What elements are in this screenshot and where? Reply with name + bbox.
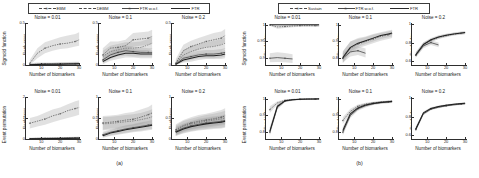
x-tick-label: 20 <box>58 66 62 70</box>
chart-cell: Noise = 0.1Rank error00.51102030Number o… <box>84 89 157 160</box>
y-tick-mark <box>266 25 268 26</box>
y-tick-label: 0 <box>169 63 171 67</box>
plot-area: 0.90.951102030 <box>265 23 321 66</box>
x-tick-label: 10 <box>185 140 189 144</box>
y-tick-mark <box>172 139 174 140</box>
y-tick-label: 1 <box>263 23 265 27</box>
y-tick-label: 0.5 <box>165 116 171 120</box>
chart-cell: Noise = 0.2Rank error00.5102030Number of… <box>157 15 230 86</box>
chart-title: Noise = 0.1 <box>324 89 397 95</box>
chart-title: Noise = 0.1 <box>324 15 397 21</box>
x-tick-label: 30 <box>150 140 154 144</box>
y-tick-label: 0 <box>169 137 171 141</box>
y-tick-mark <box>99 65 101 66</box>
y-tick-label: 1 <box>23 116 25 120</box>
y-tick-label: 0.8 <box>259 130 265 134</box>
axes: 0.80.91102030 <box>265 97 321 140</box>
y-tick-mark <box>412 61 414 62</box>
x-tick-label: 30 <box>223 140 227 144</box>
legend-label: FTR w.o.f. <box>356 6 375 11</box>
plot-area: 00.5102030 <box>171 23 227 66</box>
chart-cell: Noise = 0.01Rank error00.5102030Number o… <box>11 15 84 86</box>
legend-line-icon <box>390 8 409 9</box>
y-tick-mark <box>26 23 28 24</box>
axes: 0.80.91102030 <box>338 23 394 66</box>
panel-caption-b: (b) <box>240 160 479 167</box>
x-tick-label: 20 <box>204 140 208 144</box>
y-tick-label: 0.95 <box>257 39 265 43</box>
y-tick-label: 1 <box>263 97 265 101</box>
y-tick-label: 0.9 <box>332 113 338 117</box>
legend-item-ftr: FTR <box>390 6 418 11</box>
y-tick-label: 1 <box>409 22 411 26</box>
y-tick-mark <box>412 98 414 99</box>
legend-item-ftr-wof: ✳ FTR w.o.f. <box>122 6 159 11</box>
x-axis-label: Number of biomarkers <box>94 72 156 78</box>
plot-area: 00.51102030 <box>171 97 227 140</box>
x-tick-label: 20 <box>298 66 302 70</box>
axes: 012102030 <box>25 97 81 140</box>
y-tick-mark <box>99 118 101 119</box>
x-axis-label: Number of biomarkers <box>407 72 469 78</box>
legend-line-icon <box>171 8 190 9</box>
x-tick-label: 30 <box>390 140 394 144</box>
x-axis-label: Number of biomarkers <box>334 146 396 152</box>
x-tick-label: 10 <box>352 140 356 144</box>
x-tick-label: 30 <box>77 66 81 70</box>
x-tick-label: 20 <box>371 66 375 70</box>
x-tick-label: 20 <box>131 140 135 144</box>
axes: 0.60.81102030 <box>411 97 467 140</box>
plot-area: 00.5102030 <box>25 23 81 66</box>
chart-cell: Noise = 0.01Rand index0.90.951102030Numb… <box>251 15 324 86</box>
legend-line-icon: ✳ <box>39 8 56 9</box>
y-tick-mark <box>99 97 101 98</box>
x-tick-label: 10 <box>185 66 189 70</box>
axes: 00.5102030 <box>171 23 227 66</box>
x-axis-label: Number of biomarkers <box>21 72 83 78</box>
axes: 00.5102030 <box>25 23 81 66</box>
x-axis-label: Number of biomarkers <box>167 72 229 78</box>
y-tick-mark <box>266 58 268 59</box>
plot-area: 0.60.81102030 <box>411 23 467 66</box>
chart-title: Noise = 0.01 <box>251 15 324 21</box>
x-tick-label: 30 <box>77 140 81 144</box>
chart-cell: Noise = 0.01Rank error012102030Number of… <box>11 89 84 160</box>
y-tick-mark <box>172 23 174 24</box>
legend-item-ebm: ✳ EBM <box>39 6 66 11</box>
x-tick-label: 30 <box>317 140 321 144</box>
y-tick-label: 0.5 <box>92 21 98 25</box>
y-tick-mark <box>412 24 414 25</box>
axes: 0.80.91102030 <box>338 97 394 140</box>
chart-cell: Noise = 0.1Rand index0.80.91102030Number… <box>324 15 397 86</box>
y-tick-mark <box>26 65 28 66</box>
chart-cell: Noise = 0.1Rank error00.5102030Number of… <box>84 15 157 86</box>
chart-grid-a: Noise = 0.01Rank error00.5102030Number o… <box>0 15 239 163</box>
y-tick-label: 0.8 <box>332 130 338 134</box>
y-tick-label: 0.6 <box>405 59 411 63</box>
chart-title: Noise = 0.01 <box>251 89 324 95</box>
x-axis-label: Number of biomarkers <box>261 146 323 152</box>
panel-a: ✳ EBM DEBM ✳ FTR w.o.f. FTR Sigmoid func… <box>0 0 239 178</box>
y-tick-label: 0.5 <box>19 21 25 25</box>
legend-line-icon: ✳ <box>338 8 355 9</box>
y-tick-label: 0.6 <box>405 133 411 137</box>
y-tick-label: 0 <box>96 137 98 141</box>
x-tick-label: 20 <box>131 66 135 70</box>
chart-grid-b: Noise = 0.01Rand index0.90.951102030Numb… <box>240 15 479 163</box>
x-axis-label: Number of biomarkers <box>94 146 156 152</box>
y-tick-mark <box>26 118 28 119</box>
x-tick-label: 10 <box>425 140 429 144</box>
plot-area: 0.80.91102030 <box>338 23 394 66</box>
x-tick-label: 20 <box>371 140 375 144</box>
y-tick-mark <box>339 99 341 100</box>
plot-area: 0.60.81102030 <box>411 97 467 140</box>
x-tick-label: 20 <box>58 140 62 144</box>
legend-label: FTR w.o.f. <box>140 6 159 11</box>
chart-cell: Noise = 0.1Rand index0.80.91102030Number… <box>324 89 397 160</box>
legend-line-icon <box>79 8 96 9</box>
legend-item-ftr: FTR <box>171 6 199 11</box>
y-tick-label: 0 <box>23 137 25 141</box>
x-tick-label: 30 <box>463 66 467 70</box>
axes: 0.90.951102030 <box>265 23 321 66</box>
legend-label: DEBM <box>97 6 109 11</box>
